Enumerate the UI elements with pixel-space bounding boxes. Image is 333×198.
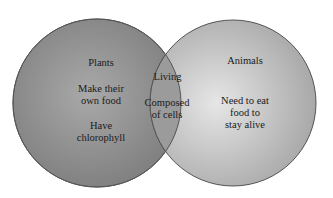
overlap-item-1: Living	[140, 71, 195, 83]
animals-item-1: Need to eatfood tostay alive	[200, 95, 290, 131]
plants-title: Plants	[60, 57, 142, 69]
plants-item-2: Havechlorophyll	[60, 120, 142, 144]
overlap-item-2: Composedof cells	[138, 97, 196, 121]
animals-title: Animals	[205, 55, 285, 67]
plants-item-1: Make theirown food	[60, 83, 142, 107]
